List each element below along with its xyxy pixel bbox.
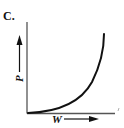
stray-mark	[118, 108, 119, 111]
p-vs-w-plot: P W	[0, 0, 124, 128]
right-arrow-icon	[89, 116, 99, 122]
up-arrow-icon	[17, 35, 23, 45]
x-axis-label-group: W	[52, 113, 99, 125]
p-vs-w-curve	[28, 34, 104, 113]
y-axis-label: P	[13, 75, 25, 82]
y-axis-label-group: P	[13, 35, 25, 82]
x-axis-label: W	[52, 113, 63, 125]
